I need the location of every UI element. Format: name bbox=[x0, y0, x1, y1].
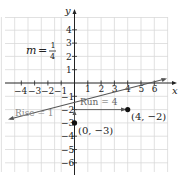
svg-text:2: 2 bbox=[66, 52, 72, 62]
svg-text:−2: −2 bbox=[61, 105, 74, 115]
point-4-neg2 bbox=[125, 107, 130, 112]
x-axis-label: x bbox=[172, 85, 178, 96]
svg-text:−1: −1 bbox=[61, 92, 74, 102]
svg-text:=: = bbox=[38, 44, 47, 57]
point-label-4-neg2: (4, −2) bbox=[131, 111, 166, 122]
svg-text:−5: −5 bbox=[61, 145, 75, 155]
svg-text:1: 1 bbox=[66, 65, 72, 75]
coordinate-plane: −4 −3 −2 −1 1 2 3 4 5 6 4 3 2 1 −1 −2 −3… bbox=[0, 0, 183, 176]
svg-text:m: m bbox=[26, 44, 36, 57]
svg-text:1: 1 bbox=[51, 41, 56, 50]
line-arrow-right-icon bbox=[161, 78, 167, 82]
svg-text:−4: −4 bbox=[61, 131, 75, 141]
svg-text:−6: −6 bbox=[61, 158, 75, 168]
svg-text:1: 1 bbox=[85, 84, 91, 94]
svg-text:4: 4 bbox=[66, 25, 72, 35]
y-axis-label: y bbox=[64, 5, 71, 16]
point-0-neg3 bbox=[72, 120, 77, 125]
svg-text:3: 3 bbox=[66, 38, 72, 48]
point-label-0-neg3: (0, −3) bbox=[78, 125, 113, 136]
svg-text:−4: −4 bbox=[14, 86, 28, 96]
svg-text:6: 6 bbox=[152, 84, 158, 94]
svg-text:4: 4 bbox=[50, 52, 55, 61]
run-label: Run = 4 bbox=[80, 97, 118, 107]
svg-text:2: 2 bbox=[99, 84, 105, 94]
y-axis-arrow-icon bbox=[73, 9, 77, 14]
svg-text:−2: −2 bbox=[41, 86, 54, 96]
rise-label: Rise = 1 bbox=[15, 108, 54, 118]
line-arrow-left-icon bbox=[8, 116, 14, 120]
svg-text:−3: −3 bbox=[28, 86, 42, 96]
